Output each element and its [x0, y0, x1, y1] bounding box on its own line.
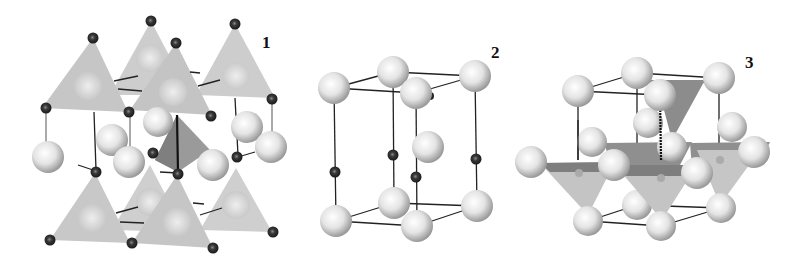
panel-label-2: 2	[491, 43, 500, 62]
large-atom	[318, 72, 350, 104]
bond	[190, 72, 200, 73]
tetrahedron	[50, 173, 130, 243]
structure-3: 3	[515, 53, 770, 241]
small-atom	[411, 172, 422, 183]
large-atom	[32, 141, 64, 173]
large-atom	[633, 108, 663, 138]
crystal-structures-figure: 1 2	[0, 0, 803, 268]
panel-label-3: 3	[745, 53, 754, 72]
large-atom	[320, 205, 352, 237]
large-atom	[401, 210, 433, 242]
large-atom	[562, 75, 594, 107]
panel-label-1: 1	[262, 33, 271, 52]
large-atom	[197, 149, 229, 181]
large-atom	[113, 146, 145, 178]
bond	[193, 203, 204, 204]
large-atom	[412, 131, 444, 163]
large-atom	[738, 136, 770, 168]
tetrahedron	[42, 38, 128, 112]
large-atom	[515, 146, 547, 178]
large-atom	[461, 190, 493, 222]
structure-2: 2	[318, 43, 500, 242]
large-atom	[646, 211, 676, 241]
large-atom	[255, 131, 287, 163]
large-atom	[706, 193, 736, 223]
large-atom	[681, 157, 713, 189]
large-atom	[703, 62, 735, 94]
small-atom	[388, 150, 399, 161]
large-atom	[400, 77, 432, 109]
large-atom	[573, 206, 603, 236]
bond	[94, 112, 96, 170]
structure-1: 1	[32, 16, 287, 254]
small-atom	[330, 167, 341, 178]
large-atom	[577, 127, 607, 157]
large-atom	[378, 187, 410, 219]
small-atom	[471, 154, 482, 165]
large-atom	[598, 149, 630, 181]
large-atom	[644, 79, 676, 111]
large-atom	[143, 107, 173, 137]
large-atom	[717, 112, 747, 142]
large-atom	[459, 60, 491, 92]
